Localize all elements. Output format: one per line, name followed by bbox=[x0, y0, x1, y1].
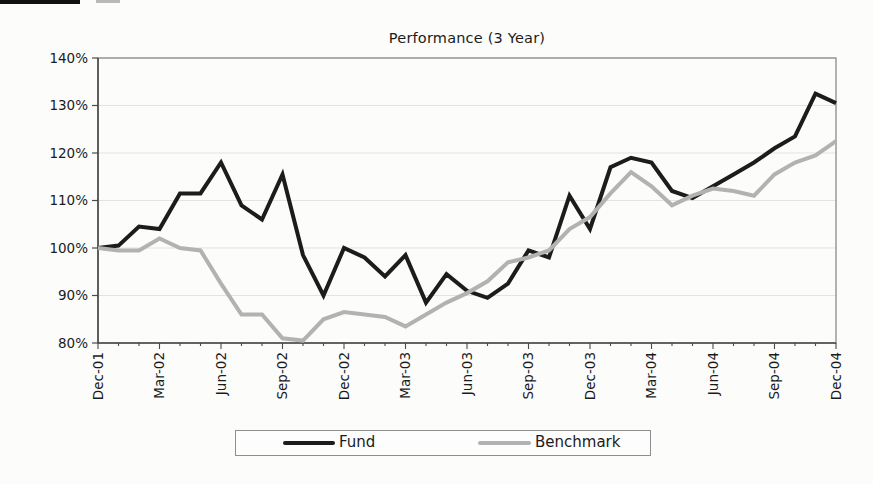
x-axis-label: Jun-04 bbox=[705, 352, 721, 396]
y-axis-label: 130% bbox=[49, 97, 88, 113]
y-axis-label: 110% bbox=[49, 192, 88, 208]
x-axis-label: Dec-04 bbox=[828, 352, 844, 400]
y-axis-label: 80% bbox=[58, 335, 88, 351]
x-axis-label: Sep-02 bbox=[274, 352, 290, 400]
line-chart-plot: 140%130%120%110%100%90%80%Dec-01Mar-02Ju… bbox=[0, 0, 873, 484]
x-axis-label: Jun-03 bbox=[459, 352, 475, 396]
y-axis-label: 120% bbox=[49, 145, 88, 161]
y-axis-label: 100% bbox=[49, 240, 88, 256]
x-axis-label: Dec-03 bbox=[582, 352, 598, 400]
legend: Fund Benchmark bbox=[235, 430, 651, 456]
x-axis-label: Mar-04 bbox=[643, 352, 659, 399]
legend-label-fund: Fund bbox=[339, 433, 375, 451]
legend-label-benchmark: Benchmark bbox=[535, 433, 620, 451]
x-axis-label: Jun-02 bbox=[213, 352, 229, 396]
y-axis-label: 90% bbox=[58, 287, 88, 303]
x-axis-label: Sep-04 bbox=[766, 352, 782, 400]
x-axis-label: Mar-02 bbox=[151, 352, 167, 399]
x-axis-label: Dec-02 bbox=[336, 352, 352, 400]
x-axis-label: Sep-03 bbox=[520, 352, 536, 400]
fund-line-swatch bbox=[283, 441, 335, 445]
fund-line-series bbox=[98, 94, 836, 303]
benchmark-line-series bbox=[98, 141, 836, 341]
x-axis-label: Mar-03 bbox=[397, 352, 413, 399]
x-axis-label: Dec-01 bbox=[90, 352, 106, 400]
y-axis-label: 140% bbox=[49, 50, 88, 66]
benchmark-line-swatch bbox=[478, 441, 531, 445]
